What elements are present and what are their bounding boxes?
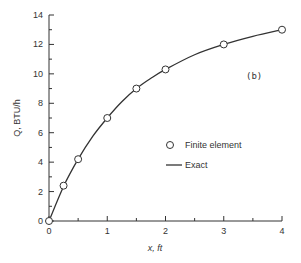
y-tick-label: 12 xyxy=(33,39,43,49)
panel-annotation: (b) xyxy=(246,71,262,81)
x-tick-label: 2 xyxy=(163,226,168,236)
x-tick-label: 1 xyxy=(105,226,110,236)
series xyxy=(46,26,286,224)
y-tick-label: 8 xyxy=(38,98,43,108)
y-axis-title: Q, BTU/h xyxy=(12,99,22,137)
chart: 0123402468101214 x, ft Q, BTU/h (b) Fini… xyxy=(0,0,301,263)
x-tick-label: 4 xyxy=(279,226,284,236)
finite-element-point xyxy=(104,115,111,122)
finite-element-point xyxy=(279,26,286,33)
legend-label-finite-element: Finite element xyxy=(185,140,242,150)
finite-element-point xyxy=(162,66,169,73)
legend: Finite element Exact xyxy=(166,140,242,170)
y-tick-label: 6 xyxy=(38,128,43,138)
y-tick-label: 4 xyxy=(38,157,43,167)
x-tick-label: 3 xyxy=(221,226,226,236)
y-tick-label: 2 xyxy=(38,187,43,197)
x-axis-title: x, ft xyxy=(147,243,163,253)
y-tick-label: 14 xyxy=(33,10,43,20)
finite-element-point xyxy=(46,218,53,225)
y-tick-label: 0 xyxy=(38,216,43,226)
ticks: 0123402468101214 xyxy=(33,10,285,236)
legend-marker-finite-element xyxy=(167,142,174,149)
x-tick-label: 0 xyxy=(46,226,51,236)
finite-element-point xyxy=(133,85,140,92)
exact-curve xyxy=(49,30,282,221)
finite-element-point xyxy=(75,156,82,163)
axes xyxy=(49,15,282,221)
finite-element-point xyxy=(220,41,227,48)
finite-element-point xyxy=(60,182,67,189)
legend-label-exact: Exact xyxy=(185,160,208,170)
y-tick-label: 10 xyxy=(33,69,43,79)
